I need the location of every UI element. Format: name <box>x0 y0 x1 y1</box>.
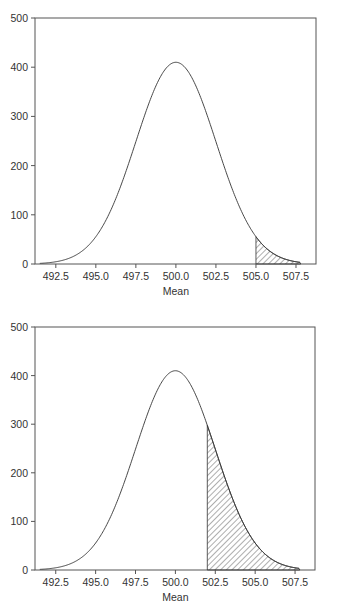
plot-frame <box>35 327 315 570</box>
y-tick-label: 0 <box>22 564 28 576</box>
x-tick-label: 492.5 <box>43 576 69 588</box>
x-axis-label: Mean <box>163 285 189 297</box>
x-tick-label: 495.0 <box>82 576 108 588</box>
normal-curve <box>40 371 299 570</box>
x-tick-label: 507.5 <box>283 270 309 282</box>
x-tick-label: 492.5 <box>43 270 69 282</box>
y-tick-label: 200 <box>10 467 28 479</box>
y-tick-label: 400 <box>10 370 28 382</box>
x-tick-label: 497.5 <box>123 270 149 282</box>
y-tick-label: 200 <box>10 160 28 172</box>
x-tick-label: 505.0 <box>243 270 269 282</box>
y-tick-label: 100 <box>10 515 28 527</box>
x-tick-label: 507.5 <box>282 576 308 588</box>
y-tick-label: 500 <box>10 321 28 333</box>
bottom-chart: 0100200300400500492.5495.0497.5500.0502.… <box>0 309 337 610</box>
shaded-tail-region <box>207 425 300 570</box>
top-chart: 0100200300400500492.5495.0497.5500.0502.… <box>0 0 337 300</box>
normal-curve <box>40 62 300 263</box>
y-tick-label: 400 <box>10 61 28 73</box>
x-tick-label: 500.0 <box>163 270 189 282</box>
y-tick-label: 100 <box>10 209 28 221</box>
shaded-tail-region <box>256 237 301 264</box>
x-tick-label: 495.0 <box>83 270 109 282</box>
x-tick-label: 505.0 <box>242 576 268 588</box>
x-tick-label: 497.5 <box>122 576 148 588</box>
y-tick-label: 300 <box>10 418 28 430</box>
y-tick-label: 0 <box>22 258 28 270</box>
x-tick-label: 500.0 <box>162 576 188 588</box>
plot-frame <box>35 18 316 264</box>
x-tick-label: 502.5 <box>202 576 228 588</box>
x-tick-label: 502.5 <box>203 270 229 282</box>
y-tick-label: 300 <box>10 110 28 122</box>
x-axis-label: Mean <box>162 591 188 603</box>
y-tick-label: 500 <box>10 12 28 24</box>
